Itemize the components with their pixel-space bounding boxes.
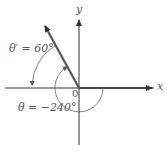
angle-label: θ = −240° — [18, 101, 77, 114]
angle-diagram — [0, 0, 167, 153]
x-axis-label: x — [157, 80, 163, 93]
origin-label: 0 — [72, 88, 78, 99]
terminal-ray — [45, 26, 79, 88]
y-axis-label: y — [76, 3, 82, 16]
reference-angle-label: θ′ = 60° — [9, 42, 54, 55]
